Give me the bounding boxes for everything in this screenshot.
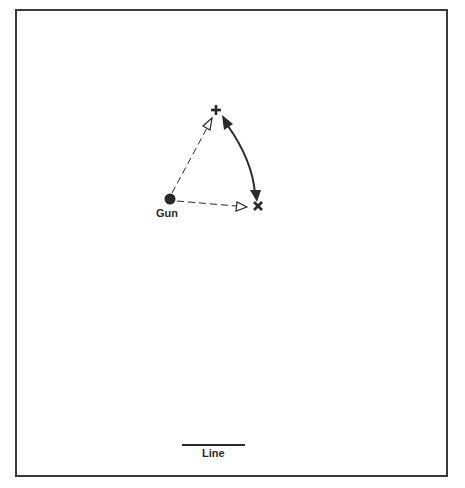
gun-marker-icon <box>165 194 176 205</box>
plus-mark-icon <box>211 105 221 115</box>
line-label: Line <box>202 447 225 459</box>
diagram-canvas <box>0 0 465 488</box>
curved-double-arrow <box>228 126 255 193</box>
open-arrowhead-icon <box>236 202 247 211</box>
x-mark-icon <box>254 202 262 210</box>
dashed-arrow-gun-to-plus <box>172 128 207 193</box>
dashed-arrow-gun-to-cross <box>177 201 236 206</box>
open-arrowhead-icon <box>203 118 212 130</box>
filled-arrowhead-icon <box>222 115 233 130</box>
filled-arrowhead-icon <box>250 190 261 202</box>
gun-label: Gun <box>156 207 178 219</box>
